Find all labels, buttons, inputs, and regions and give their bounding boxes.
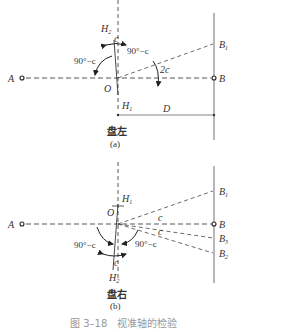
panel-a-title: 盘左 — [107, 125, 127, 137]
label-2c: 2c — [160, 64, 170, 75]
label-o-b: O — [107, 207, 114, 218]
arc-2c — [153, 61, 158, 86]
label-angle-right-b: 90°−c — [135, 239, 157, 249]
label-a-b: A — [7, 219, 15, 230]
point-a — [20, 76, 24, 80]
panel-a-sub: (a) — [110, 139, 120, 149]
label-h1-b: H1 — [121, 193, 132, 205]
panel-b-sub: (b) — [110, 301, 121, 311]
panel-b-title: 盘右 — [107, 288, 127, 300]
figure-caption: 图 3–18 视准轴的检验 — [70, 317, 177, 329]
label-b3-b: B3 — [219, 233, 228, 245]
label-c-b: c — [114, 257, 119, 268]
label-h2: H2 — [100, 23, 111, 35]
arc-left-b — [97, 227, 113, 244]
label-d: D — [162, 103, 171, 114]
point-b — [212, 76, 216, 80]
label-b1: B1 — [219, 39, 228, 51]
label-h1: H1 — [121, 100, 132, 112]
collimation-axis-diagram: A B B1 O H1 H2 c 90°−c 90°−c 2c D 盘左 (a)… — [0, 0, 284, 332]
label-o: O — [104, 83, 111, 94]
tilted-axis — [114, 40, 118, 95]
label-c1-b: c — [158, 212, 163, 223]
label-b: B — [219, 73, 225, 84]
label-b2-b: B2 — [219, 248, 228, 260]
label-angle-left: 90°−c — [74, 56, 96, 66]
label-b1-b: B1 — [219, 186, 228, 198]
panel-b: A B B1 B3 B2 O H1 H2 c c c 90°−c 90°−c 盘… — [7, 162, 228, 311]
arc-left — [95, 56, 112, 75]
label-b-b: B — [219, 219, 225, 230]
label-a: A — [7, 73, 15, 84]
panel-a: A B B1 O H1 H2 c 90°−c 90°−c 2c D 盘左 (a) — [7, 0, 228, 149]
label-c: c — [114, 33, 119, 44]
label-angle-left-b: 90°−c — [74, 240, 96, 250]
label-h2-b: H2 — [108, 272, 119, 284]
label-c2-b: c — [158, 226, 163, 237]
label-angle-right: 90°−c — [127, 46, 149, 56]
